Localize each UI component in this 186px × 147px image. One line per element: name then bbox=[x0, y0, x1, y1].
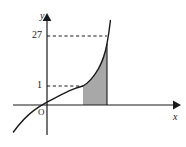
y-tick-label-1: 1 bbox=[28, 80, 42, 90]
y-tick-label-27: 27 bbox=[20, 30, 42, 40]
origin-label: O bbox=[38, 108, 45, 117]
y-axis-label: y bbox=[40, 11, 44, 21]
graph-figure: y x O 27 1 bbox=[0, 0, 186, 147]
x-axis-arrowhead bbox=[173, 101, 181, 110]
plot-canvas bbox=[0, 0, 186, 147]
x-axis-label: x bbox=[173, 112, 177, 122]
